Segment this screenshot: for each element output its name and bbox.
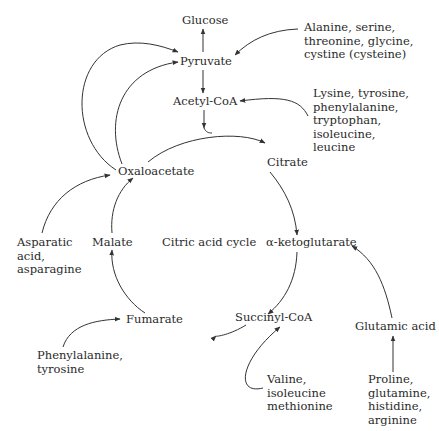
arrow-fumarate-malate	[112, 250, 145, 313]
node-glutamic-acid: Glutamic acid	[355, 320, 436, 334]
source-pyruvate: Alanine, serine, threonine, glycine, cys…	[304, 21, 413, 62]
arrow-malate-oxaloacetate	[112, 178, 133, 233]
node-fumarate: Fumarate	[126, 313, 183, 327]
arrow-succinylcoa-fumarate	[216, 325, 246, 336]
node-alpha-ketoglutarate: α-ketoglutarate	[266, 236, 357, 250]
arrow-glutamic-aketoglutarate	[352, 246, 392, 318]
source-acetyl-coa: Lysine, tyrosine, phenylalanine, tryptop…	[313, 87, 409, 155]
source-succinyl-coa: Valine, isoleucine methionine	[267, 373, 333, 414]
node-succinyl-coa: Succinyl-CoA	[235, 311, 312, 325]
arrow-phenylalanine-fumarate	[63, 319, 120, 347]
node-acetyl-coa: Acetyl-CoA	[173, 95, 237, 109]
arrow-aminoacids-pyruvate	[235, 29, 298, 55]
node-malate: Malate	[92, 236, 133, 250]
arrow-asparatic-oxaloacetate	[42, 175, 110, 233]
cycle-title: Citric acid cycle	[162, 236, 256, 250]
node-pyruvate: Pyruvate	[180, 55, 232, 69]
arrow-oxaloacetate-citrate	[148, 136, 265, 162]
node-oxaloacetate: Oxaloacetate	[118, 165, 194, 179]
citric-acid-cycle-diagram: Glucose Pyruvate Acetyl-CoA Citrate α-ke…	[0, 0, 439, 431]
arrow-aminoacids-acetylcoa	[240, 99, 308, 116]
source-oxaloacetate: Asparatic acid, asparagine	[17, 236, 82, 277]
node-citrate: Citrate	[267, 156, 308, 170]
source-fumarate: Phenylalanine, tyrosine	[37, 349, 123, 376]
source-glutamic-acid: Proline, glutamine, histidine, arginine	[368, 373, 430, 427]
arrow-citrate-aketoglutarate	[270, 172, 297, 235]
node-glucose: Glucose	[182, 14, 228, 28]
arrow-aketoglutarate-succinylcoa	[268, 252, 297, 314]
